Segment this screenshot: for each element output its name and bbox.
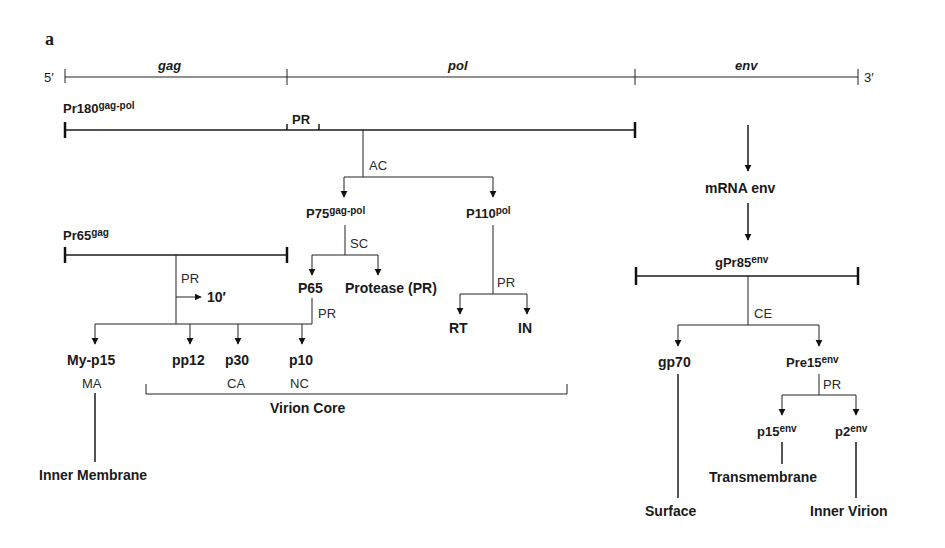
pp12-label: pp12 <box>172 352 205 368</box>
five-prime-label: 5′ <box>44 70 54 85</box>
three-prime-label: 3′ <box>864 70 874 85</box>
p30-label: p30 <box>225 352 249 368</box>
virion-core-bracket <box>146 384 567 394</box>
p110-label: P110pol <box>466 205 511 221</box>
domain-ca: CA <box>227 376 245 391</box>
pr-region-label: PR <box>292 112 311 127</box>
domain-ma: MA <box>82 376 102 391</box>
gene-label-gag: gag <box>157 58 181 73</box>
panel-label: a <box>45 29 54 49</box>
virion-core-label: Virion Core <box>270 400 345 416</box>
rt-label: RT <box>449 320 468 336</box>
p10-label: p10 <box>289 352 313 368</box>
enzyme-sc: SC <box>350 236 368 251</box>
pr180-label: Pr180gag-pol <box>63 100 135 116</box>
inner-membrane-label: Inner Membrane <box>39 467 147 483</box>
p65-label: P65 <box>298 280 323 296</box>
gene-label-env: env <box>735 58 758 73</box>
transmembrane-label: Transmembrane <box>709 469 817 485</box>
pre15-label: Pre15env <box>786 354 839 370</box>
my-p15-label: My-p15 <box>67 352 115 368</box>
enzyme-pr-pre15: PR <box>823 377 841 392</box>
enzyme-pr-p110: PR <box>497 275 515 290</box>
inner-virion-label: Inner Virion <box>810 503 888 519</box>
gpr85-precursor: gPr85env <box>636 254 858 285</box>
protease-label: Protease (PR) <box>345 280 437 296</box>
ten-prime-label: 10′ <box>207 289 227 305</box>
gp70-label: gp70 <box>658 354 691 370</box>
surface-label: Surface <box>645 503 697 519</box>
gene-label-pol: pol <box>447 58 468 73</box>
domain-nc: NC <box>290 376 309 391</box>
p75-label: P75gag-pol <box>306 205 365 221</box>
retrovirus-processing-diagram: a 5′ 3′ gag pol env Pr180gag-pol PR AC P… <box>0 0 945 548</box>
mrna-env-label: mRNA env <box>705 180 775 196</box>
enzyme-ac: AC <box>369 158 387 173</box>
pr65-precursor: Pr65gag <box>63 227 287 263</box>
pr65-label: Pr65gag <box>63 227 109 243</box>
enzyme-ce: CE <box>754 306 772 321</box>
pr180-precursor: Pr180gag-pol PR <box>63 100 635 138</box>
enzyme-pr-p65: PR <box>318 306 336 321</box>
p2env-label: p2env <box>835 423 868 439</box>
gpr85-label: gPr85env <box>715 254 769 270</box>
p15env-label: p15env <box>757 423 797 439</box>
genome-map: 5′ 3′ gag pol env <box>44 58 874 85</box>
in-label: IN <box>518 320 532 336</box>
enzyme-pr-pr65: PR <box>181 271 199 286</box>
